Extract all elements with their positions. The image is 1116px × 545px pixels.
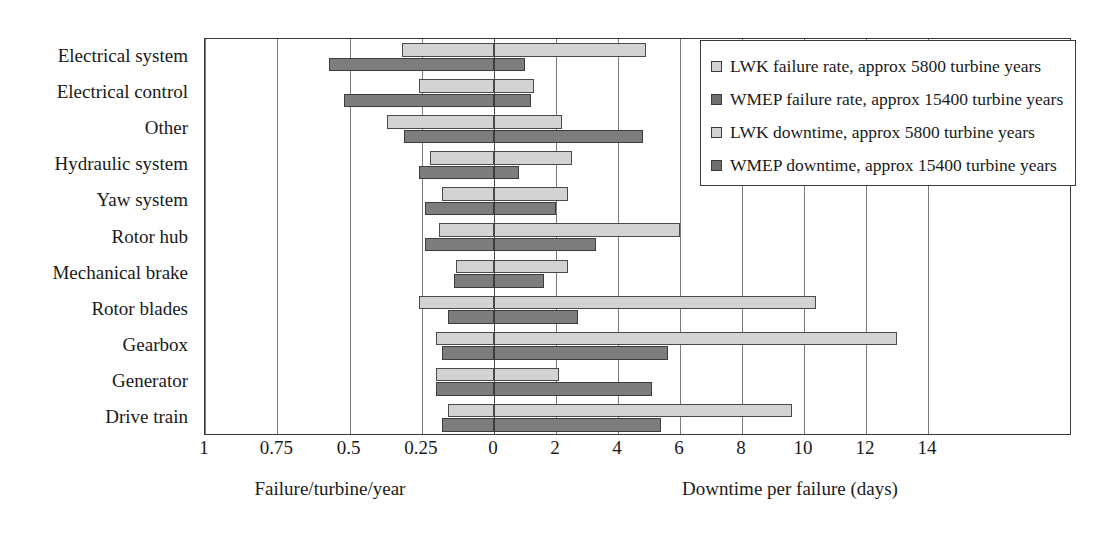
tick-downtime-2: 2	[550, 437, 560, 459]
bar-lwk-failure-rate	[402, 43, 494, 57]
bar-lwk-downtime	[494, 332, 897, 346]
bar-wmep-failure-rate	[404, 130, 494, 144]
bar-row-group	[205, 328, 1070, 364]
bar-lwk-failure-rate	[430, 151, 494, 165]
bar-wmep-downtime	[494, 274, 544, 288]
bar-wmep-downtime	[494, 202, 556, 216]
bar-wmep-failure-rate	[425, 238, 494, 252]
legend-swatch-lwk-icon	[711, 61, 722, 72]
category-label: Hydraulic system	[54, 154, 188, 173]
tick-failure-0.75: 0.75	[260, 437, 293, 459]
bar-wmep-failure-rate	[442, 418, 494, 432]
bar-lwk-downtime	[494, 151, 572, 165]
bar-wmep-failure-rate	[425, 202, 494, 216]
bar-wmep-downtime	[494, 418, 661, 432]
bar-wmep-downtime	[494, 346, 668, 360]
legend-label: LWK failure rate, approx 5800 turbine ye…	[730, 58, 1041, 76]
bar-wmep-failure-rate	[329, 58, 494, 72]
category-axis-labels: Electrical systemElectrical controlOther…	[0, 38, 196, 435]
bar-lwk-failure-rate	[442, 187, 494, 201]
tick-failure-1: 1	[199, 437, 209, 459]
bar-lwk-failure-rate	[439, 223, 494, 237]
legend-item: LWK downtime, approx 5800 turbine years	[711, 116, 1065, 149]
category-label: Drive train	[105, 407, 188, 426]
tick-downtime-8: 8	[736, 437, 746, 459]
bar-wmep-failure-rate	[454, 274, 494, 288]
legend-swatch-wmep-icon	[711, 160, 722, 171]
legend-item: LWK failure rate, approx 5800 turbine ye…	[711, 50, 1065, 83]
bar-lwk-downtime	[494, 223, 680, 237]
legend-item: WMEP downtime, approx 15400 turbine year…	[711, 149, 1065, 182]
bar-wmep-downtime	[494, 382, 652, 396]
bar-wmep-downtime	[494, 58, 525, 72]
tick-failure-0: 0	[488, 437, 498, 459]
bar-wmep-failure-rate	[344, 94, 494, 108]
bar-wmep-downtime	[494, 94, 531, 108]
bar-row-group	[205, 400, 1070, 436]
bar-lwk-failure-rate	[436, 368, 494, 382]
bar-lwk-failure-rate	[456, 260, 494, 274]
bar-lwk-failure-rate	[448, 404, 494, 418]
bar-row-group	[205, 219, 1070, 255]
bar-lwk-downtime	[494, 404, 792, 418]
bar-wmep-downtime	[494, 166, 519, 180]
category-label: Gearbox	[123, 335, 188, 354]
category-label: Electrical control	[57, 82, 188, 101]
tick-failure-0.25: 0.25	[404, 437, 437, 459]
category-label: Yaw system	[96, 190, 188, 209]
legend-label: LWK downtime, approx 5800 turbine years	[730, 124, 1035, 142]
bar-wmep-downtime	[494, 310, 578, 324]
bar-lwk-downtime	[494, 115, 562, 129]
left-axis-title: Failure/turbine/year	[255, 478, 406, 500]
right-axis-title: Downtime per failure (days)	[682, 478, 898, 500]
tick-downtime-12: 12	[856, 437, 875, 459]
chart-legend: LWK failure rate, approx 5800 turbine ye…	[700, 40, 1076, 186]
tick-failure-0.5: 0.5	[337, 437, 361, 459]
chart-container: Electrical systemElectrical controlOther…	[0, 0, 1116, 545]
bar-lwk-downtime	[494, 368, 559, 382]
bar-lwk-downtime	[494, 260, 568, 274]
bar-wmep-failure-rate	[442, 346, 494, 360]
tick-downtime-10: 10	[794, 437, 813, 459]
bar-row-group	[205, 364, 1070, 400]
tick-downtime-4: 4	[612, 437, 622, 459]
bar-lwk-failure-rate	[436, 332, 494, 346]
legend-label: WMEP failure rate, approx 15400 turbine …	[730, 91, 1063, 109]
category-label: Other	[145, 118, 188, 137]
legend-swatch-wmep-icon	[711, 94, 722, 105]
category-label: Generator	[112, 371, 188, 390]
category-label: Rotor hub	[111, 227, 188, 246]
bar-lwk-failure-rate	[419, 79, 494, 93]
legend-swatch-lwk-icon	[711, 127, 722, 138]
bar-lwk-downtime	[494, 43, 646, 57]
legend-label: WMEP downtime, approx 15400 turbine year…	[730, 157, 1057, 175]
bar-lwk-downtime	[494, 79, 534, 93]
bar-wmep-failure-rate	[419, 166, 494, 180]
bar-wmep-downtime	[494, 130, 643, 144]
bar-lwk-failure-rate	[419, 296, 494, 310]
bar-lwk-downtime	[494, 187, 568, 201]
bar-lwk-failure-rate	[387, 115, 494, 129]
bar-wmep-failure-rate	[448, 310, 494, 324]
legend-item: WMEP failure rate, approx 15400 turbine …	[711, 83, 1065, 116]
tick-downtime-6: 6	[674, 437, 684, 459]
bar-wmep-failure-rate	[436, 382, 494, 396]
tick-downtime-14: 14	[918, 437, 937, 459]
bar-row-group	[205, 292, 1070, 328]
category-label: Electrical system	[58, 46, 188, 65]
category-label: Mechanical brake	[52, 263, 188, 282]
bar-lwk-downtime	[494, 296, 816, 310]
bar-row-group	[205, 256, 1070, 292]
bar-row-group	[205, 183, 1070, 219]
bar-wmep-downtime	[494, 238, 596, 252]
x-axis-ticks: 10.750.50.2502468101214	[204, 437, 1071, 463]
category-label: Rotor blades	[91, 299, 188, 318]
